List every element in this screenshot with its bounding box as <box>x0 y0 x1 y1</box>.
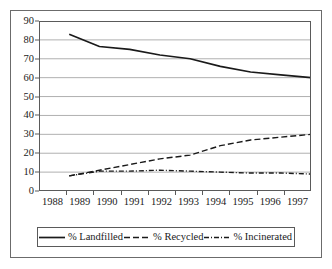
x-tick-mark <box>229 191 230 195</box>
x-tick-label: 1995 <box>233 197 254 208</box>
plot-frame <box>39 21 311 191</box>
legend-item-1: % Landfilled <box>39 232 124 243</box>
x-tick-mark <box>257 191 258 195</box>
chart-legend: % Landfilled% Recycled% Incinerated <box>37 227 295 247</box>
y-tick-label: 30 <box>24 129 35 140</box>
y-axis: 0102030405060708090 <box>11 21 39 191</box>
x-axis: 1988198919901991199219931994199519961997 <box>39 191 311 213</box>
x-tick-label: 1991 <box>124 197 145 208</box>
y-tick-label: 50 <box>24 91 35 102</box>
x-tick-mark <box>284 191 285 195</box>
x-tick-mark <box>202 191 203 195</box>
y-tick-label: 20 <box>24 148 35 159</box>
legend-item-3: % Incinerated <box>204 232 293 243</box>
legend-swatch-dash-dot-icon <box>204 233 230 242</box>
y-tick-label: 90 <box>24 16 35 27</box>
x-tick-label: 1992 <box>151 197 172 208</box>
x-tick-mark <box>148 191 149 195</box>
x-tick-label: 1994 <box>205 197 226 208</box>
x-tick-label: 1988 <box>42 197 63 208</box>
x-tick-label: 1989 <box>69 197 90 208</box>
chart-figure: 0102030405060708090 19881989199019911992… <box>10 10 322 258</box>
x-tick-label: 1997 <box>287 197 308 208</box>
y-tick-label: 60 <box>24 72 35 83</box>
legend-swatch-dashed-icon <box>124 233 150 242</box>
legend-item-2: % Recycled <box>124 232 204 243</box>
y-tick-label: 0 <box>29 186 34 197</box>
y-tick-label: 40 <box>24 110 35 121</box>
legend-label: % Incinerated <box>233 232 293 243</box>
legend-label: % Recycled <box>153 232 204 243</box>
legend-swatch-solid-icon <box>39 233 65 242</box>
x-tick-label: 1996 <box>260 197 281 208</box>
x-tick-mark <box>175 191 176 195</box>
y-tick-label: 10 <box>24 167 35 178</box>
y-tick-label: 70 <box>24 54 35 65</box>
x-tick-label: 1990 <box>97 197 118 208</box>
legend-label: % Landfilled <box>68 232 124 243</box>
plot-area <box>39 21 311 191</box>
x-tick-label: 1993 <box>178 197 199 208</box>
x-tick-mark <box>121 191 122 195</box>
x-tick-mark <box>93 191 94 195</box>
y-tick-label: 80 <box>24 35 35 46</box>
x-tick-mark <box>66 191 67 195</box>
